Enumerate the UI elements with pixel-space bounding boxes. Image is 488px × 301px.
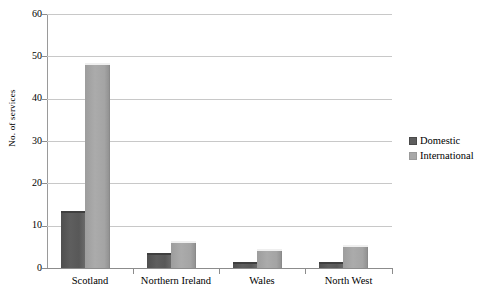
y-tick-label-30: 30	[16, 136, 42, 146]
y-tick-label-20: 20	[16, 178, 42, 188]
bar-wales-international	[257, 249, 282, 268]
bar-wales-domestic	[233, 262, 257, 268]
y-tick-label-60: 60	[16, 9, 42, 19]
x-category-label-north-west: North West	[305, 274, 392, 287]
legend-label-domestic: Domestic	[420, 135, 460, 147]
bar-scotland-international	[85, 63, 110, 268]
gridline-50	[47, 56, 392, 57]
x-axis-separator-4	[392, 269, 393, 274]
y-tick-label-50: 50	[16, 51, 42, 61]
bar-scotland-domestic	[61, 211, 85, 268]
gridline-60	[47, 14, 392, 15]
bar-northern-ireland-domestic	[147, 253, 171, 268]
legend-swatch-international-icon	[409, 152, 417, 160]
x-category-label-wales: Wales	[219, 274, 305, 287]
bar-northern-ireland-international	[171, 241, 196, 268]
legend-item-domestic: Domestic	[409, 133, 474, 148]
x-axis-line	[47, 268, 393, 269]
y-tick-label-40: 40	[16, 93, 42, 103]
bar-chart: No. of services 60 50 40 30 20 10 0	[0, 0, 488, 301]
bar-north-west-international	[343, 245, 368, 268]
legend-label-international: International	[420, 150, 474, 162]
bar-north-west-domestic	[319, 262, 343, 268]
legend-swatch-domestic-icon	[409, 137, 417, 145]
plot-area	[47, 14, 392, 268]
x-category-label-scotland: Scotland	[47, 274, 133, 287]
y-axis-tick-labels: 60 50 40 30 20 10 0	[12, 0, 42, 301]
chart-legend: Domestic International	[409, 133, 474, 163]
x-category-label-northern-ireland: Northern Ireland	[133, 274, 219, 287]
y-tick-label-10: 10	[16, 220, 42, 230]
y-tick-label-0: 0	[16, 263, 42, 273]
legend-item-international: International	[409, 148, 474, 163]
